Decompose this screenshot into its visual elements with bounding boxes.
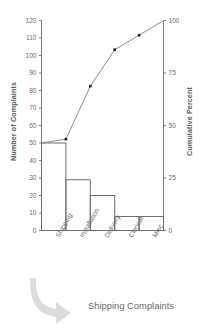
y-tick-label: 120 xyxy=(19,17,37,24)
y-tick-label: 40 xyxy=(19,157,37,164)
cumulative-line-group xyxy=(42,21,164,144)
y-tick-label: 30 xyxy=(19,174,37,181)
cumulative-point-marker xyxy=(89,85,92,88)
y-tick-label: 80 xyxy=(19,87,37,94)
bar-shipping xyxy=(42,143,66,231)
right-axis xyxy=(164,21,167,231)
y-tick-label: 60 xyxy=(19,122,37,129)
y-tick-label: 10 xyxy=(19,209,37,216)
cumulative-point-marker xyxy=(138,34,141,37)
y-tick-label: 100 xyxy=(19,52,37,59)
figure-caption: Shipping Complaints xyxy=(88,300,174,311)
y-tick-label: 70 xyxy=(19,104,37,111)
y-tick-label: 110 xyxy=(19,34,37,41)
cumulative-point-marker xyxy=(113,48,116,51)
bars-group xyxy=(42,143,164,231)
curved-arrow-icon xyxy=(30,276,88,326)
y-tick-label: 90 xyxy=(19,69,37,76)
cumulative-point-marker xyxy=(65,138,68,141)
y2-tick-label: 75 xyxy=(169,69,176,76)
chart-plot-area: Number of Complaints Cumulative Percent … xyxy=(0,0,202,280)
y-tick-label: 20 xyxy=(19,192,37,199)
y2-tick-label: 100 xyxy=(169,17,180,24)
y-tick-label: 0 xyxy=(19,227,37,234)
y-axis-title: Number of Complaints xyxy=(9,72,18,172)
y2-axis-title: Cumulative Percent xyxy=(185,72,194,172)
pareto-chart-figure: Number of Complaints Cumulative Percent … xyxy=(0,0,202,330)
y2-tick-label: 25 xyxy=(169,174,176,181)
y2-tick-label: 0 xyxy=(169,227,173,234)
left-axis xyxy=(39,21,164,231)
y2-tick-label: 50 xyxy=(169,122,176,129)
cumulative-markers-group xyxy=(65,34,141,141)
y-tick-label: 50 xyxy=(19,139,37,146)
